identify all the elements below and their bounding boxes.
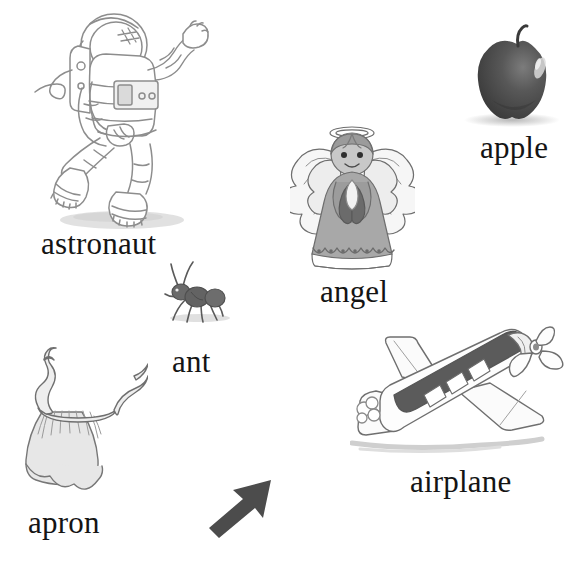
- apron-drawing: [8, 346, 148, 491]
- caption-apron: apron: [28, 505, 100, 541]
- caption-angel: angel: [320, 274, 388, 310]
- caption-airplane: airplane: [410, 464, 511, 500]
- item-astronaut[interactable]: [30, 8, 220, 238]
- caption-apple: apple: [480, 130, 548, 166]
- item-apron[interactable]: [8, 346, 148, 491]
- astronaut-drawing: [30, 8, 220, 238]
- caption-ant: ant: [172, 344, 210, 380]
- picture-vocabulary-page: astronaut: [0, 0, 577, 574]
- item-apple[interactable]: [462, 22, 572, 132]
- item-angel[interactable]: [290, 112, 415, 272]
- airplane-drawing: [350, 325, 565, 465]
- item-ant[interactable]: [155, 260, 245, 330]
- ant-drawing: [155, 260, 245, 330]
- apple-photo: [462, 22, 572, 132]
- angel-drawing: [290, 112, 415, 272]
- caption-astronaut: astronaut: [41, 226, 156, 262]
- item-airplane[interactable]: [350, 325, 565, 465]
- arrow-pointing-up-right-icon[interactable]: [205, 478, 285, 540]
- arrow-up-right-icon: [205, 478, 285, 540]
